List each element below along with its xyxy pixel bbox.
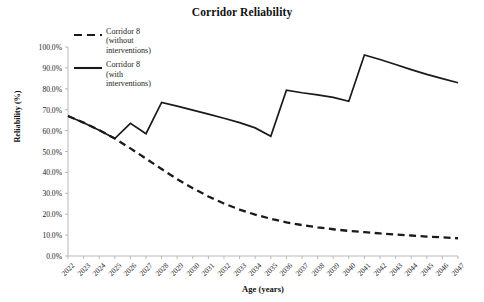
y-axis-tick-label: 40.0% — [6, 168, 62, 177]
chart-legend: Corridor 8 (without interventions) Corri… — [74, 27, 204, 93]
y-axis-tick-label: 30.0% — [6, 189, 62, 198]
legend-label-without-interventions: Corridor 8 (without interventions) — [106, 27, 151, 55]
solid-line-icon — [74, 60, 102, 72]
y-axis-tick-label: 0.0% — [6, 252, 62, 261]
legend-entry-with-interventions: Corridor 8 (with interventions) — [74, 60, 204, 88]
series-line — [68, 116, 458, 238]
y-axis-tick-label: 10.0% — [6, 231, 62, 240]
y-axis-tick-label: 20.0% — [6, 210, 62, 219]
chart-figure: Corridor Reliability 0.0%10.0%20.0%30.0%… — [0, 0, 484, 302]
dashed-line-icon — [74, 27, 102, 39]
y-axis-tick-label: 100.0% — [6, 43, 62, 52]
legend-label-with-interventions: Corridor 8 (with interventions) — [106, 60, 151, 88]
legend-entry-without-interventions: Corridor 8 (without interventions) — [74, 27, 204, 55]
plot-area — [0, 0, 484, 302]
x-axis-label: Age (years) — [68, 284, 458, 294]
y-axis-label: Reliability (%) — [13, 77, 22, 157]
y-axis-tick-label: 90.0% — [6, 63, 62, 72]
